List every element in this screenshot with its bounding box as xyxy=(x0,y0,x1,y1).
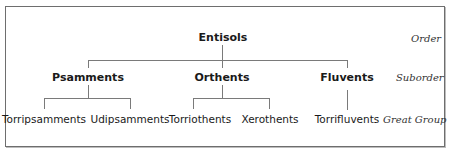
great-group-node-udipsamments: Udipsamments xyxy=(91,113,170,126)
connector-line xyxy=(44,98,45,109)
connector-line xyxy=(222,45,223,61)
connector-line xyxy=(347,90,348,110)
connector-line xyxy=(44,98,131,99)
suborder-node-fluvents: Fluvents xyxy=(320,71,373,84)
connector-line xyxy=(222,60,223,68)
connector-line xyxy=(347,60,348,68)
connector-line xyxy=(193,98,270,99)
level-label-suborder: Suborder xyxy=(396,71,444,84)
great-group-node-xerothents: Xerothents xyxy=(241,113,298,126)
suborder-node-psamments: Psamments xyxy=(52,71,124,84)
connector-line xyxy=(130,98,131,109)
connector-line xyxy=(193,98,194,109)
connector-line xyxy=(88,60,348,61)
connector-line xyxy=(88,60,89,68)
great-group-node-torrifluvents: Torrifluvents xyxy=(315,113,380,126)
suborder-node-orthents: Orthents xyxy=(195,71,250,84)
great-group-node-torriothents: Torriothents xyxy=(169,113,231,126)
great-group-node-torripsamments: Torripsamments xyxy=(2,113,86,126)
order-node-entisols: Entisols xyxy=(199,31,248,44)
level-label-order: Order xyxy=(411,32,441,45)
connector-line xyxy=(222,85,223,98)
connector-line xyxy=(88,85,89,98)
level-label-great-group: Great Group xyxy=(383,113,446,126)
connector-line xyxy=(269,98,270,109)
